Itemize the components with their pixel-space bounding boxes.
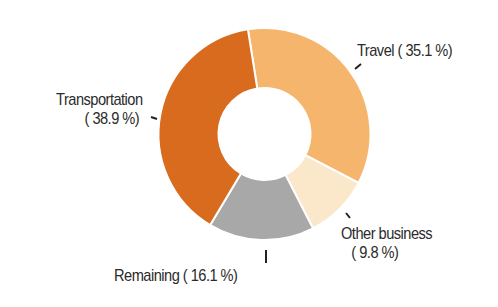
label-other-business: Other business ( 9.8 %) xyxy=(341,224,432,262)
label-other-business-name: Other business xyxy=(341,224,432,243)
label-remaining-text: Remaining ( 16.1 %) xyxy=(114,266,237,285)
label-travel-text: Travel ( 35.1 %) xyxy=(357,41,452,60)
travel-tick xyxy=(355,64,361,69)
label-transportation-value: ( 38.9 %) xyxy=(56,109,143,128)
label-travel: Travel ( 35.1 %) xyxy=(357,41,452,60)
transportation-tick xyxy=(151,117,157,119)
donut-slices xyxy=(158,28,370,240)
label-other-business-value: ( 9.8 %) xyxy=(341,243,432,262)
label-transportation: Transportation ( 38.9 %) xyxy=(56,90,143,128)
label-remaining: Remaining ( 16.1 %) xyxy=(114,266,237,285)
label-transportation-name: Transportation xyxy=(56,90,143,109)
other-business-tick xyxy=(346,213,350,218)
